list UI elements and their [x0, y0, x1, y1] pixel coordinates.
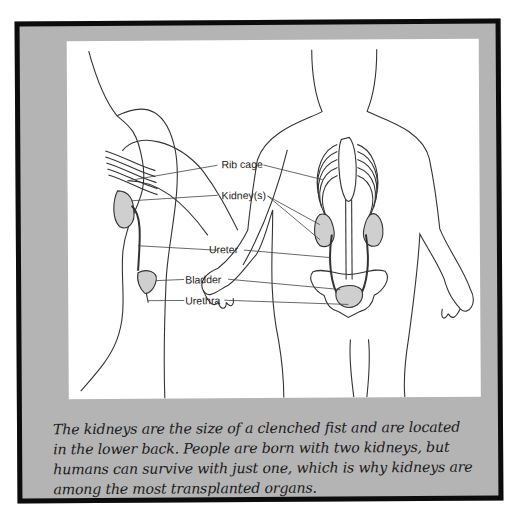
rib-cage [317, 137, 378, 219]
figure-caption: The kidneys are the size of a clenched f… [53, 417, 473, 500]
front-figure-outline [200, 50, 323, 399]
figure-frame: Rib cage Kidney(s) Ureter Bladder Urethr… [15, 19, 504, 504]
anatomy-illustration [67, 39, 481, 400]
label-rib-cage: Rib cage [221, 158, 263, 170]
label-ureter: Ureter [209, 243, 238, 255]
side-figure-outline [79, 51, 145, 391]
label-kidneys: Kidney(s) [222, 189, 266, 201]
label-urethra: Urethra [185, 294, 220, 306]
label-bladder: Bladder [185, 273, 221, 285]
diagram-panel: Rib cage Kidney(s) Ureter Bladder Urethr… [67, 39, 481, 400]
